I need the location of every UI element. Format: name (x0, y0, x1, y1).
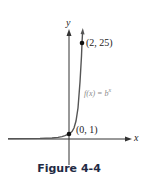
point-label-2-25: (2, 25) (86, 38, 113, 48)
function-label: f(x) = bx (84, 87, 111, 98)
x-axis-arrow-icon (125, 137, 132, 142)
point-2-25 (80, 41, 85, 46)
function-label-base: f(x) = b (84, 89, 109, 98)
figure-caption: Figure 4-4 (0, 162, 138, 175)
exponential-graph (0, 0, 148, 185)
exponential-curve (8, 32, 83, 139)
x-axis-label: x (134, 133, 138, 143)
point-label-0-1: (0, 1) (76, 125, 98, 135)
y-axis-label: y (66, 18, 70, 28)
y-axis-arrow-icon (67, 29, 72, 36)
curve-arrow-icon (81, 28, 85, 34)
point-0-1 (67, 132, 72, 137)
function-label-exponent: x (109, 87, 112, 93)
